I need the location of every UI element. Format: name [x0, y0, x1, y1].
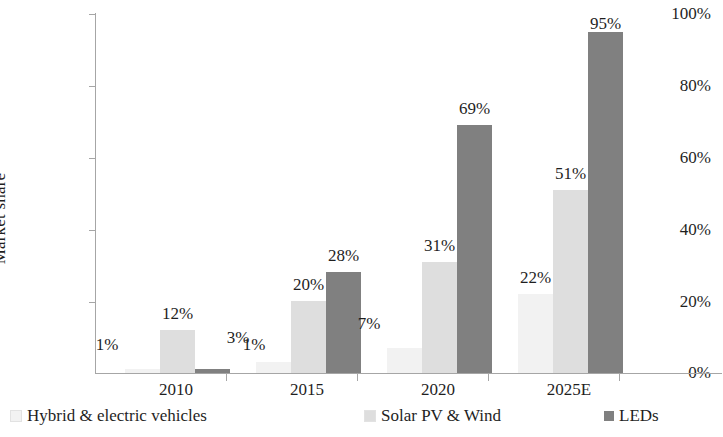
legend-item-solar-pv-wind[interactable]: Solar PV & Wind — [364, 406, 501, 426]
x-category-label-2025e: 2025E — [519, 380, 619, 400]
legend-label-solar-pv-wind: Solar PV & Wind — [381, 406, 501, 426]
bar-2010-series-3[interactable] — [195, 369, 230, 373]
x-category-label-2015: 2015 — [257, 380, 357, 400]
bar-2025e-series-1[interactable] — [518, 294, 553, 373]
bar-2010-series-1[interactable] — [125, 369, 160, 373]
bar-value-label-2020-series-3: 69% — [457, 99, 492, 119]
bar-value-label-2010-series-2: 12% — [160, 304, 195, 324]
x-separator-tick-2 — [357, 374, 358, 381]
bar-2020-series-1[interactable] — [387, 348, 422, 373]
x-separator-tick-1 — [226, 374, 227, 381]
legend-swatch-icon-hybrid-electric-vehicles — [10, 410, 22, 422]
y-axis-title: Market share — [0, 0, 70, 437]
plot-area: 1%12%1%3%20%28%7%31%69%22%51%95% — [95, 14, 721, 373]
x-category-label-2020: 2020 — [388, 380, 488, 400]
legend-swatch-icon-solar-pv-wind — [364, 410, 376, 422]
bar-2010-series-2[interactable] — [160, 330, 195, 373]
x-separator-tick-3 — [488, 374, 489, 381]
legend-label-hybrid-electric-vehicles: Hybrid & electric vehicles — [27, 406, 207, 426]
bar-2025e-series-3[interactable] — [588, 32, 623, 373]
legend-item-hybrid-electric-vehicles[interactable]: Hybrid & electric vehicles — [10, 406, 207, 426]
y-axis-title-text: Market share — [0, 173, 10, 265]
bar-value-label-2025e-series-2: 51% — [553, 164, 588, 184]
bar-value-label-2020-series-1: 7% — [347, 314, 391, 334]
bar-value-label-2010-series-1: 1% — [85, 335, 129, 355]
bar-value-label-2015-series-2: 20% — [291, 275, 326, 295]
legend-label-leds: LEDs — [619, 406, 659, 426]
x-separator-tick-4 — [619, 374, 620, 381]
bar-value-label-2020-series-2: 31% — [422, 236, 457, 256]
bar-2025e-series-2[interactable] — [553, 190, 588, 373]
bar-2015-series-2[interactable] — [291, 301, 326, 373]
bar-2020-series-2[interactable] — [422, 262, 457, 373]
bar-2015-series-1[interactable] — [256, 362, 291, 373]
bar-2020-series-3[interactable] — [457, 125, 492, 373]
bar-value-label-2015-series-3: 28% — [326, 246, 361, 266]
x-category-label-2010: 2010 — [126, 380, 226, 400]
bar-value-label-2015-series-1: 3% — [216, 328, 260, 348]
bar-value-label-2025e-series-3: 95% — [588, 14, 623, 34]
legend-swatch-icon-leds — [604, 411, 614, 421]
bar-value-label-2025e-series-1: 22% — [518, 268, 553, 288]
legend-item-leds[interactable]: LEDs — [604, 406, 659, 426]
x-axis-line — [95, 373, 722, 374]
bar-chart: Market share 100% 80% 60% 40% 20% 0% 1%1… — [0, 0, 723, 437]
chart-legend: Hybrid & electric vehicles Solar PV & Wi… — [0, 404, 723, 437]
